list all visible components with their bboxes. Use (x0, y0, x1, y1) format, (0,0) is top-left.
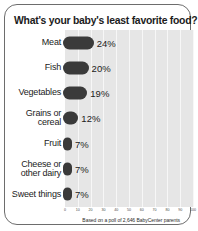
bar-row: Fish20% (5, 55, 194, 80)
category-label: Cheese or other dairy (5, 160, 63, 179)
value-label: 19% (90, 88, 109, 99)
bar (63, 188, 72, 201)
axis-tick: 40 (114, 208, 118, 212)
bar-row: Fruit7% (5, 131, 194, 156)
bar (63, 137, 72, 150)
axis-tick: 80 (165, 208, 169, 212)
value-label: 7% (75, 138, 89, 149)
x-axis-ticks: 0102030405060708090100 (65, 208, 193, 216)
bar (63, 112, 78, 125)
bar-zone: 7% (63, 131, 194, 156)
category-label: Meat (5, 38, 63, 48)
category-label: Sweet things (5, 190, 63, 200)
axis-tick: 30 (101, 208, 105, 212)
category-label: Fruit (5, 139, 63, 149)
bar-row: Vegetables19% (5, 81, 194, 106)
value-label: 12% (81, 113, 100, 124)
axis-tick: 70 (153, 208, 157, 212)
bar-row: Cheese or other dairy7% (5, 156, 194, 181)
bar-zone: 24% (63, 30, 194, 55)
axis-tick: 90 (178, 208, 182, 212)
bar-rows: Meat24%Fish20%Vegetables19%Grains or cer… (5, 30, 194, 207)
axis-tick: 50 (127, 208, 131, 212)
chart-card: What's your baby's least favorite food? … (4, 4, 191, 225)
bar (63, 163, 72, 176)
bar (63, 87, 87, 100)
bar-zone: 7% (63, 182, 194, 207)
chart-title: What's your baby's least favorite food? (14, 15, 186, 26)
bar (63, 61, 89, 74)
bar (63, 36, 94, 49)
axis-tick: 20 (89, 208, 93, 212)
axis-tick: 10 (76, 208, 80, 212)
axis-tick: 100 (190, 208, 196, 212)
value-label: 7% (75, 164, 89, 175)
category-label: Fish (5, 63, 63, 73)
category-label: Vegetables (5, 88, 63, 98)
bar-row: Grains or cereal12% (5, 106, 194, 131)
axis-tick: 0 (64, 208, 66, 212)
bar-zone: 20% (63, 55, 194, 80)
value-label: 24% (97, 37, 116, 48)
bar-row: Meat24% (5, 30, 194, 55)
value-label: 20% (92, 62, 111, 73)
category-label: Grains or cereal (5, 109, 63, 128)
bar-zone: 12% (63, 106, 194, 131)
axis-tick: 60 (140, 208, 144, 212)
bar-zone: 19% (63, 81, 194, 106)
bar-zone: 7% (63, 156, 194, 181)
bar-row: Sweet things7% (5, 182, 194, 207)
source-note: Based on a poll of 2,646 BabyCenter pare… (5, 217, 180, 223)
value-label: 7% (75, 189, 89, 200)
